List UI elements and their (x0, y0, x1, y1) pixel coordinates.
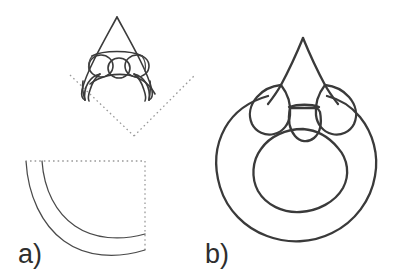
panel-a-bottom-arcs: a) (18, 161, 145, 269)
detail-wing-left-inner (88, 74, 100, 101)
detail-outline-left (82, 17, 117, 100)
panel-a-label: a) (18, 239, 42, 269)
panel-b-label: b) (205, 239, 229, 269)
detail-wing-left (85, 74, 100, 100)
figure-canvas: a) b) (0, 0, 404, 277)
lobe-outer-right (316, 85, 356, 135)
ring-outer-boundary (216, 96, 376, 241)
dotted-chevron-guide (70, 75, 194, 136)
panel-b-cross-section: b) (205, 38, 376, 269)
lobe-transverse-bar (289, 105, 319, 107)
figure-root: a) b) (0, 0, 404, 277)
arc-inner (42, 161, 145, 238)
panel-a-top-detail (70, 17, 194, 136)
ring-inner-opening (253, 129, 347, 212)
dotted-quarter-frame (30, 161, 145, 250)
lobe-outer-left (250, 85, 290, 135)
